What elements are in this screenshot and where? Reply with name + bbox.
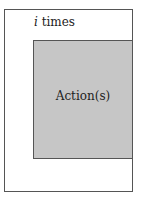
loop-label: i times xyxy=(34,15,75,29)
loop-suffix: times xyxy=(38,15,75,29)
action-label: Action(s) xyxy=(56,89,111,103)
action-block: Action(s) xyxy=(33,40,133,159)
